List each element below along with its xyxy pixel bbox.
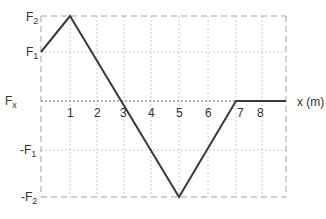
y-label-neg-f2: -F2 <box>21 190 37 206</box>
x-tick: 1 <box>67 106 74 120</box>
x-axis-label: x (m) <box>297 95 324 109</box>
y-label-f1: F1 <box>26 45 38 61</box>
x-tick: 7 <box>237 106 244 120</box>
force-curve <box>41 16 286 197</box>
x-tick: 6 <box>205 106 212 120</box>
x-tick: 4 <box>148 106 155 120</box>
force-position-chart: F2 F1 Fx -F1 -F2 1 2 3 4 5 6 7 8 x (m) <box>0 0 326 219</box>
x-tick: 3 <box>120 106 127 120</box>
y-label-neg-f1: -F1 <box>20 143 36 159</box>
x-tick: 8 <box>257 106 264 120</box>
x-tick: 5 <box>176 106 183 120</box>
y-label-f2: F2 <box>26 10 38 26</box>
x-tick-labels: 1 2 3 4 5 6 7 8 <box>67 106 264 120</box>
y-axis-label: Fx <box>5 94 17 110</box>
x-tick: 2 <box>94 106 101 120</box>
